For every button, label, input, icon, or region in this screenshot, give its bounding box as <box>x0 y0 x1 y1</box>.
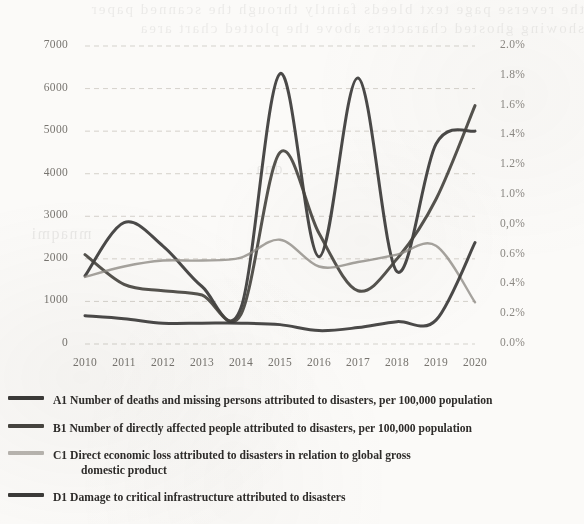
series-line-c1 <box>85 240 475 303</box>
line-chart-plot <box>0 28 584 388</box>
right-axis-tick-label: 0.2% <box>500 306 550 318</box>
left-axis-tick-label: 4000 <box>16 166 68 178</box>
right-axis-tick-label: 0.0% <box>500 336 550 348</box>
x-axis-tick-label: 2019 <box>416 356 456 368</box>
right-axis-tick-label: 2.0% <box>500 38 550 50</box>
left-axis-tick-label: 1000 <box>16 293 68 305</box>
right-axis-tick-label: 0.6% <box>500 247 550 259</box>
legend-item-label: A1 Number of deaths and missing persons … <box>53 394 493 407</box>
right-axis-tick-label: 1.4% <box>500 127 550 139</box>
right-axis-tick-label: 0,0% <box>500 217 550 229</box>
x-axis-tick-label: 2013 <box>182 356 222 368</box>
chart-legend: A1 Number of deaths and missing persons … <box>0 390 584 515</box>
right-axis-tick-label: 1.6% <box>500 98 550 110</box>
bleed-line-1: the reverse page text bleeds faintly thr… <box>0 0 584 19</box>
line-swatch-b1 <box>8 424 44 428</box>
x-axis-tick-label: 2010 <box>65 356 105 368</box>
series-line-d1 <box>85 243 475 331</box>
legend-item-label: D1 Damage to critical infrastructure att… <box>53 491 345 504</box>
right-axis-tick-label: 1.2% <box>500 157 550 169</box>
left-axis-tick-label: 6000 <box>16 81 68 93</box>
line-swatch-d1 <box>8 493 44 497</box>
chart-container: 70006000500040003000200010000 2.0%1.8%1.… <box>0 28 584 388</box>
series-line-a1 <box>85 73 475 321</box>
x-axis-tick-label: 2015 <box>260 356 300 368</box>
line-swatch-c1 <box>8 451 44 455</box>
left-axis-tick-label: 5000 <box>16 123 68 135</box>
left-axis-tick-label: 7000 <box>16 38 68 50</box>
x-axis-tick-label: 2014 <box>221 356 261 368</box>
left-axis-tick-label: 3000 <box>16 208 68 220</box>
left-axis-tick-label: 0 <box>16 336 68 348</box>
legend-item[interactable]: C1 Direct economic loss attributed to di… <box>0 445 584 478</box>
legend-item[interactable]: A1 Number of deaths and missing persons … <box>0 390 584 409</box>
right-axis-tick-label: 1.8% <box>500 68 550 80</box>
right-axis-tick-label: 0.4% <box>500 276 550 288</box>
x-axis-tick-label: 2020 <box>455 356 495 368</box>
left-axis-tick-label: 2000 <box>16 251 68 263</box>
x-axis-tick-label: 2018 <box>377 356 417 368</box>
line-swatch-a1 <box>8 396 44 400</box>
legend-item-label: C1 Direct economic loss attributed to di… <box>53 449 411 462</box>
legend-item-label: B1 Number of directly affected people at… <box>53 422 472 435</box>
x-axis-tick-label: 2012 <box>143 356 183 368</box>
x-axis-tick-label: 2016 <box>299 356 339 368</box>
x-axis-tick-label: 2011 <box>104 356 144 368</box>
legend-item[interactable]: D1 Damage to critical infrastructure att… <box>0 487 584 506</box>
right-axis-tick-label: 1.0% <box>500 187 550 199</box>
legend-item-label-continued: domestic product <box>53 464 411 479</box>
legend-item[interactable]: B1 Number of directly affected people at… <box>0 418 584 437</box>
x-axis-tick-label: 2017 <box>338 356 378 368</box>
